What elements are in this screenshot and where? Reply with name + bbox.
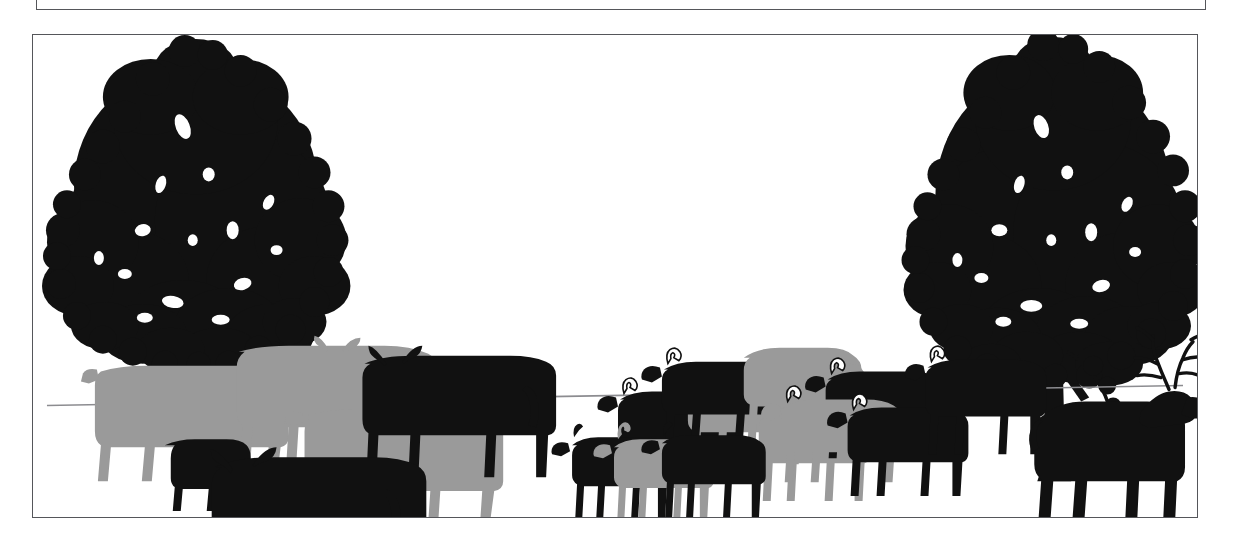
partial-figure-box-above (36, 0, 1206, 10)
figure-page (0, 0, 1234, 549)
figure-frame (32, 34, 1198, 518)
pastoral-scene (33, 35, 1197, 517)
